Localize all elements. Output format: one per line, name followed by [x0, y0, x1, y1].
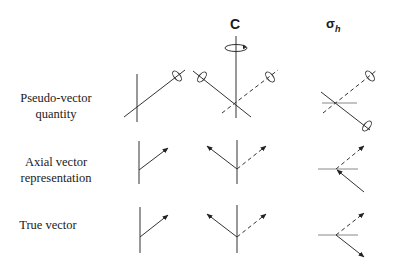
axial-vector-original	[139, 141, 168, 184]
axial-vector-sigma-h	[318, 146, 364, 192]
true-vector-original	[140, 207, 168, 253]
axial-vector-c	[207, 140, 266, 184]
symmetry-diagram	[0, 0, 393, 274]
true-vector-sigma-h	[318, 213, 364, 257]
pseudo-vector-sigma-h	[321, 69, 377, 132]
pseudo-vector-original	[124, 69, 185, 122]
true-vector-c	[207, 205, 266, 253]
